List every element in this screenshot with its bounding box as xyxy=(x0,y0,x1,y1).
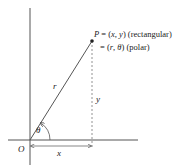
origin-label: O xyxy=(18,144,25,154)
vertical-label: y xyxy=(95,94,100,104)
polar-coordinates-diagram: P = (x, y) (rectangular) = (r, θ) (polar… xyxy=(0,0,190,165)
horizontal-label: x xyxy=(56,148,61,158)
angle-label: θ xyxy=(36,125,41,135)
angle-arc xyxy=(41,123,50,140)
radius-label: r xyxy=(53,81,57,91)
point-label: P = (x, y) (rectangular) xyxy=(93,29,172,39)
point-p xyxy=(90,39,94,43)
polar-label: = (r, θ) (polar) xyxy=(100,42,150,52)
